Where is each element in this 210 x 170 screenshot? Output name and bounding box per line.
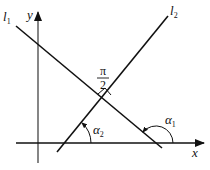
x-axis-label: x xyxy=(191,145,198,160)
diagram-canvas: y x l1 l2 π 2 α2 α1 xyxy=(0,0,210,170)
line-l2 xyxy=(57,16,168,152)
line-l1-label: l1 xyxy=(3,9,11,26)
angle-alpha1-arc xyxy=(143,126,173,143)
denominator-2: 2 xyxy=(100,78,106,92)
right-angle-label: π 2 xyxy=(97,64,109,92)
pi-numerator: π xyxy=(100,64,106,78)
angle-alpha2-label: α2 xyxy=(93,122,104,139)
angle-alpha2-arc xyxy=(82,123,91,143)
y-axis-label: y xyxy=(25,7,33,22)
angle-alpha1-label: α1 xyxy=(165,112,176,129)
line-l2-label: l2 xyxy=(170,3,178,20)
